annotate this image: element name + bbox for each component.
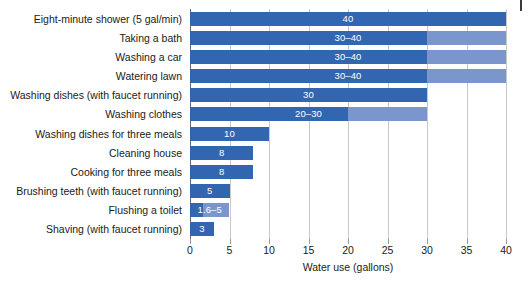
bar-value-label: 30 [190, 88, 427, 102]
category-label: Eight-minute shower (5 gal/min) [0, 12, 186, 26]
bar-row: 5 [190, 184, 506, 198]
bar-row: 30 [190, 88, 506, 102]
bar-row: 30–40 [190, 50, 506, 64]
bar-value-label: 20–30 [190, 107, 427, 121]
x-tick-label-35: 35 [447, 244, 487, 256]
category-label: Cooking for three meals [0, 165, 186, 179]
bar-row: 1.6–5 [190, 203, 506, 217]
gridline-40 [506, 9, 507, 239]
bar-value-label: 8 [190, 165, 253, 179]
category-label: Washing clothes [0, 107, 186, 121]
bar-row: 8 [190, 165, 506, 179]
bar-row: 3 [190, 222, 506, 236]
bar-value-label: 5 [190, 184, 230, 198]
bar-row: 20–30 [190, 107, 506, 121]
water-use-bar-chart: Eight-minute shower (5 gal/min)Taking a … [0, 0, 528, 282]
category-label: Washing dishes for three meals [0, 127, 186, 141]
bar-row: 30–40 [190, 69, 506, 83]
bar-row: 30–40 [190, 31, 506, 45]
bar-row: 8 [190, 146, 506, 160]
x-tick-label-30: 30 [407, 244, 447, 256]
category-label: Cleaning house [0, 146, 186, 160]
x-tick-label-40: 40 [486, 244, 526, 256]
category-label: Shaving (with faucet running) [0, 222, 186, 236]
bar-row: 10 [190, 127, 506, 141]
bar-value-label: 40 [190, 12, 506, 26]
x-tick-label-0: 0 [170, 244, 210, 256]
bar-value-label: 10 [190, 127, 269, 141]
category-label: Washing a car [0, 50, 186, 64]
category-label: Watering lawn [0, 69, 186, 83]
x-tick-label-25: 25 [368, 244, 408, 256]
category-label: Washing dishes (with faucet running) [0, 88, 186, 102]
scan-artifact [520, 0, 522, 11]
category-label: Brushing teeth (with faucet running) [0, 184, 186, 198]
bar-value-label: 30–40 [190, 69, 506, 83]
x-tick-label-20: 20 [328, 244, 368, 256]
bar-value-label: 1.6–5 [190, 203, 230, 217]
plot-area: 4030–4030–4030–403020–30108851.6–53 [190, 9, 506, 239]
bar-value-label: 8 [190, 146, 253, 160]
category-label: Taking a bath [0, 31, 186, 45]
x-tick-label-10: 10 [249, 244, 289, 256]
bar-value-label: 30–40 [190, 31, 506, 45]
x-axis-title: Water use (gallons) [190, 261, 506, 273]
bar-row: 40 [190, 12, 506, 26]
bar-value-label: 3 [190, 222, 214, 236]
category-label: Flushing a toilet [0, 203, 186, 217]
x-tick-label-15: 15 [289, 244, 329, 256]
bar-value-label: 30–40 [190, 50, 506, 64]
x-tick-label-5: 5 [210, 244, 250, 256]
